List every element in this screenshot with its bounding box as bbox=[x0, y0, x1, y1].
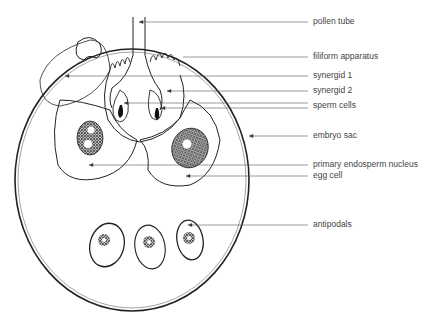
embryo-sac-wall bbox=[15, 49, 249, 311]
sperm-cells-shape bbox=[118, 105, 159, 120]
label-filiform-apparatus: filiform apparatus bbox=[313, 52, 378, 61]
label-antipodals: antipodals bbox=[313, 220, 352, 229]
label-primary-endosperm-nucleus: primary endosperm nucleus bbox=[313, 160, 418, 169]
left-vesicle bbox=[40, 37, 110, 106]
synergid-bulb bbox=[104, 70, 184, 142]
label-embryo-sac: embryo sac bbox=[313, 131, 357, 140]
antipodal-cells bbox=[85, 218, 206, 271]
label-sperm-cells: sperm cells bbox=[313, 101, 356, 110]
label-synergid-2: synergid 2 bbox=[313, 86, 352, 95]
pollen-tube-shape bbox=[110, 17, 162, 110]
label-egg-cell: egg cell bbox=[313, 171, 342, 180]
label-pollen-tube: pollen tube bbox=[313, 17, 355, 26]
label-synergid-1: synergid 1 bbox=[313, 71, 352, 80]
